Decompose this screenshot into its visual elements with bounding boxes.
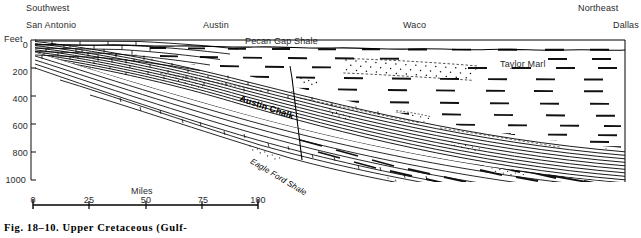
- y-axis-ticks: [31, 40, 36, 180]
- eagle-ford-interbedded-pattern: [35, 52, 627, 214]
- scale-bar: [33, 199, 258, 209]
- geologic-cross-section-diagram: [0, 0, 641, 238]
- formation-boundary-lines: [290, 66, 302, 160]
- figure-root: Southwest Northeast San Antonio Austin W…: [0, 0, 641, 238]
- marl-dash-pattern: [80, 48, 621, 147]
